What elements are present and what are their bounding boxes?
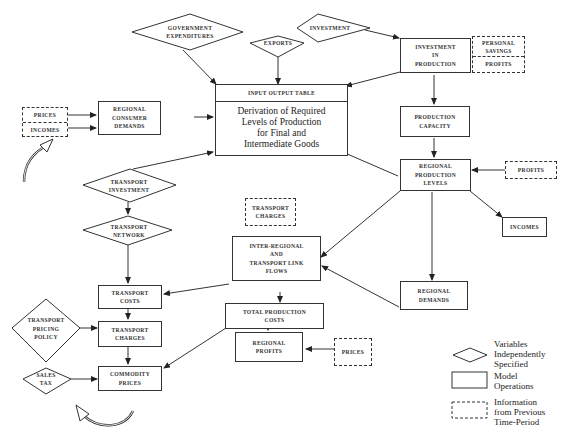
transport-pricing-policy-label: TRANSPORT PRICING POLICY bbox=[14, 316, 78, 342]
savings-profits-dashed-box: PERSONAL SAVINGS PROFITS bbox=[472, 36, 525, 73]
prices-bottom-dashed-box: PRICES bbox=[334, 338, 372, 366]
legend-box-icon bbox=[452, 372, 487, 388]
inter-regional-flows-box: INTER-REGIONAL AND TRANSPORT LINK FLOWS bbox=[232, 236, 321, 281]
sales-tax-label: SALES TAX bbox=[28, 370, 64, 388]
transport-costs-box: TRANSPORT COSTS bbox=[98, 285, 162, 309]
profits-right-dashed-box: PROFITS bbox=[505, 161, 557, 179]
transport-network-label: TRANSPORT NETWORK bbox=[94, 221, 164, 241]
investment-label: INVESTMENT bbox=[300, 23, 360, 33]
commodity-prices-box: COMMODITY PRICES bbox=[98, 366, 162, 391]
transport-investment-label: TRANSPORT INVESTMENT bbox=[94, 176, 164, 196]
incomes-left-label: INCOMES bbox=[23, 123, 67, 137]
incomes-box: INCOMES bbox=[502, 217, 547, 237]
input-output-table-box: INPUT OUTPUT TABLE Derivation of Require… bbox=[215, 84, 348, 156]
regional-demands-box: REGIONAL DEMANDS bbox=[400, 281, 468, 310]
exports-label: EXPORTS bbox=[254, 38, 302, 48]
legend-dashed-label: Information from Previous Time-Period bbox=[494, 397, 545, 427]
legend-diamond-icon bbox=[453, 348, 487, 362]
legend-box-label: Model Operations bbox=[494, 371, 534, 391]
transport-charges-prev-dashed-box: TRANSPORT CHARGES bbox=[245, 198, 296, 226]
regional-production-levels-box: REGIONAL PRODUCTION LEVELS bbox=[400, 159, 471, 191]
cycle-arrow-lower bbox=[84, 411, 133, 425]
production-capacity-box: PRODUCTION CAPACITY bbox=[400, 106, 470, 137]
prices-incomes-dashed-box: PRICES INCOMES bbox=[22, 107, 68, 137]
prices-left-label: PRICES bbox=[23, 108, 67, 123]
total-production-costs-box: TOTAL PRODUCTION COSTS bbox=[225, 303, 324, 329]
legend-dashed-icon bbox=[452, 402, 487, 418]
investment-in-production-box: INVESTMENT IN PRODUCTION bbox=[400, 38, 471, 73]
legend-diamond-label: Variables Independently Specified bbox=[494, 339, 545, 369]
regional-profits-box: REGIONAL PROFITS bbox=[235, 332, 303, 362]
personal-savings-label: PERSONAL SAVINGS bbox=[473, 37, 524, 57]
input-output-table-body: Derivation of Required Levels of Product… bbox=[216, 102, 347, 150]
regional-consumer-demands-box: REGIONAL CONSUMER DEMANDS bbox=[98, 101, 161, 135]
input-output-table-header: INPUT OUTPUT TABLE bbox=[216, 85, 347, 102]
government-expenditures-label: GOVERNMENT EXPENDITURES bbox=[150, 22, 230, 42]
profits-top-label: PROFITS bbox=[473, 57, 524, 72]
transport-charges-box: TRANSPORT CHARGES bbox=[98, 321, 162, 347]
